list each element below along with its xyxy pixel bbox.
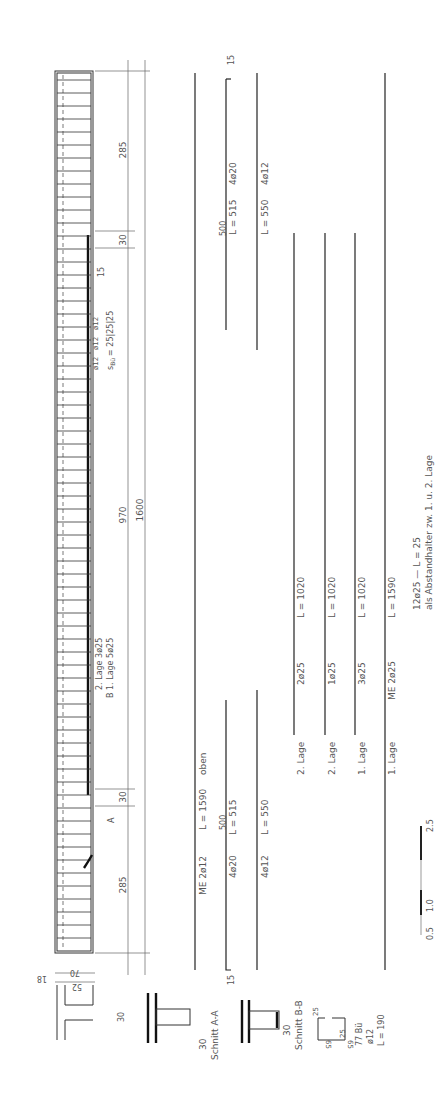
bar-above-dim: 500 [219, 221, 228, 236]
stirrup-dim: 25 [339, 1029, 347, 1038]
section-dim-a: 18 [37, 974, 47, 983]
stirrups [57, 80, 91, 938]
bar-label: 4ø12 [260, 855, 270, 878]
bar-length: L = 515 [228, 200, 238, 235]
section-bb-dim: 30 [282, 1024, 292, 1036]
row-length: L = 1020 [296, 577, 306, 618]
section-dim-flange: 30 [117, 1012, 126, 1022]
bar-hook-dim: 15 [227, 975, 236, 985]
dim-gap-left: 30 [118, 791, 128, 803]
bar-schedule: 4ø20 L = 515 500 15 4ø12 L = 550 ME 2ø12… [195, 55, 397, 985]
row-layer: 1. Lage [387, 741, 397, 775]
dim-end-left: 285 [118, 876, 128, 893]
stirrup-dim: 65 [346, 1040, 354, 1049]
bar-label: 4ø20 [228, 855, 238, 878]
stirrup-spacing-label: sBü= 25|25|25 [106, 311, 116, 370]
section-aa: 30 Schnitt A-A [148, 993, 220, 1060]
stirrup-count: 77 Bü [355, 1023, 364, 1046]
scale-tick: 2.5 [426, 819, 435, 832]
row-layer: 2. Lage [296, 741, 306, 775]
bar-note: oben [198, 753, 208, 775]
spacer-note-line2: als Abstandhalter zw. 1. u. 2. Lage [424, 455, 434, 610]
web-outline [249, 1011, 279, 1029]
section-bb: 30 Schnitt B-B [242, 1000, 304, 1050]
stirrup-length: L = 190 [377, 1014, 386, 1046]
dimension-chain: 285 30 970 1600 30 285 15 [95, 60, 150, 975]
bar-length: L = 550 [260, 199, 270, 235]
stirrup-bar-label: ø12 [92, 357, 100, 370]
bar-label: 4ø12 [260, 162, 270, 185]
tee-outline [57, 985, 93, 1040]
stirrup-spacing: sBü= 25|25|25 ø12 ø12 ø12 [92, 311, 116, 370]
section-aa-title: Schnitt A-A [210, 1010, 220, 1060]
drawing-sheet: 285 30 970 1600 30 285 15 sBü= 25|25|25 … [0, 0, 447, 1108]
scale-bar: 0.5 1.0 2.5 [421, 819, 435, 940]
row-label: ME 2ø25 [387, 661, 397, 700]
section-aa-dim: 30 [198, 1038, 208, 1050]
spacer-note: 12ø25 — L = 25 als Abstandhalter zw. 1. … [412, 455, 434, 610]
section-mark-b: B [106, 693, 115, 699]
scale-tick: 1.0 [426, 899, 435, 912]
layer-labels: 2. Lage 3ø25 1. Lage 5ø25 B A [95, 638, 116, 823]
bar-label: ME 2ø12 [198, 856, 208, 895]
row-length: L = 1020 [357, 577, 367, 618]
bar-length: L = 515 [228, 800, 238, 835]
stirrup-bar-label: ø12 [92, 337, 100, 350]
stirrup-dim: 65 [324, 1040, 332, 1049]
spacer-note-line1: 12ø25 — L = 25 [412, 537, 422, 610]
cross-section-elevation: 18 70 52 30 [37, 968, 126, 1040]
layer-label-first: 1. Lage 5ø25 [106, 638, 115, 690]
stirrup-diameter: ø12 [366, 1029, 375, 1044]
bar-length: L = 1590 [198, 789, 208, 830]
bar-above-dim: 500 [219, 815, 228, 830]
row-layer: 1. Lage [357, 741, 367, 775]
row-length: L = 1590 [387, 577, 397, 618]
reinforcement-drawing: 285 30 970 1600 30 285 15 sBü= 25|25|25 … [0, 0, 447, 1108]
dim-gap-right: 30 [118, 234, 128, 246]
web-outline [156, 1009, 190, 1025]
dim-stirrup-extra: 15 [97, 267, 106, 277]
row-label: 3ø25 [357, 662, 367, 685]
flange-bars [148, 993, 156, 1043]
stirrup-bar-label: ø12 [92, 317, 100, 330]
dim-mid-span: 970 [118, 506, 128, 523]
section-dim-c: 52 [72, 982, 82, 991]
dim-total: 1600 [135, 498, 145, 521]
stirrup-shape: 25 65 65 25 77 Bü ø12 L = 190 [312, 1007, 386, 1049]
dim-end-right: 285 [118, 141, 128, 158]
section-dim-b: 70 [70, 968, 80, 977]
row-label: 1ø25 [327, 662, 337, 685]
section-bb-title: Schnitt B-B [294, 1000, 304, 1050]
row-length: L = 1020 [327, 577, 337, 618]
layer-label-second: 2. Lage 3ø25 [95, 638, 104, 690]
bar-hook-dim: 15 [227, 55, 236, 65]
section-mark-a: A [107, 817, 116, 823]
stirrup-dim: 25 [312, 1007, 320, 1016]
scale-tick: 0.5 [426, 927, 435, 940]
flange-bars [242, 1000, 249, 1043]
row-layer: 2. Lage [327, 741, 337, 775]
beam-inner-outline [57, 73, 91, 951]
beam-elevation [55, 71, 93, 953]
row-label: 2ø25 [296, 662, 306, 685]
bar-label: 4ø20 [228, 162, 238, 185]
bar-length: L = 550 [260, 799, 270, 835]
